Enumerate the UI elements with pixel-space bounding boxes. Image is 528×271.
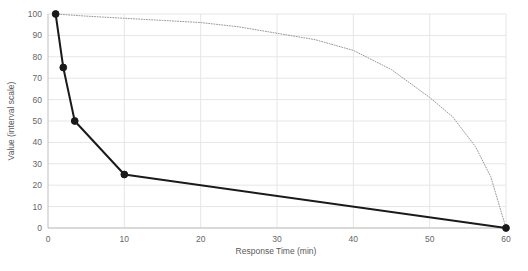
line-chart: 0102030405060 0102030405060708090100 Res…: [0, 0, 528, 271]
y-tick-label: 40: [33, 137, 43, 147]
x-tick-label: 50: [425, 234, 435, 244]
chart-container: 0102030405060 0102030405060708090100 Res…: [0, 0, 528, 271]
chart-background: [0, 0, 528, 271]
x-tick-label: 0: [46, 234, 51, 244]
data-point-marker: [121, 171, 128, 178]
y-tick-label: 20: [33, 180, 43, 190]
y-tick-label: 60: [33, 95, 43, 105]
y-tick-label: 0: [37, 223, 42, 233]
data-point-marker: [71, 118, 78, 125]
y-axis-title: Value (interval scale): [6, 81, 16, 160]
x-tick-label: 20: [196, 234, 206, 244]
x-tick-label: 40: [349, 234, 359, 244]
y-tick-label: 70: [33, 73, 43, 83]
y-tick-label: 90: [33, 30, 43, 40]
x-axis-title: Response Time (min): [236, 246, 317, 256]
y-tick-label: 50: [33, 116, 43, 126]
x-tick-label: 10: [120, 234, 130, 244]
y-tick-label: 100: [28, 9, 42, 19]
y-tick-label: 30: [33, 159, 43, 169]
data-point-marker: [52, 11, 59, 18]
x-tick-label: 60: [501, 234, 511, 244]
y-tick-label: 80: [33, 52, 43, 62]
data-point-marker: [503, 225, 510, 232]
x-tick-label: 30: [272, 234, 282, 244]
data-point-marker: [60, 64, 67, 71]
y-tick-label: 10: [33, 202, 43, 212]
